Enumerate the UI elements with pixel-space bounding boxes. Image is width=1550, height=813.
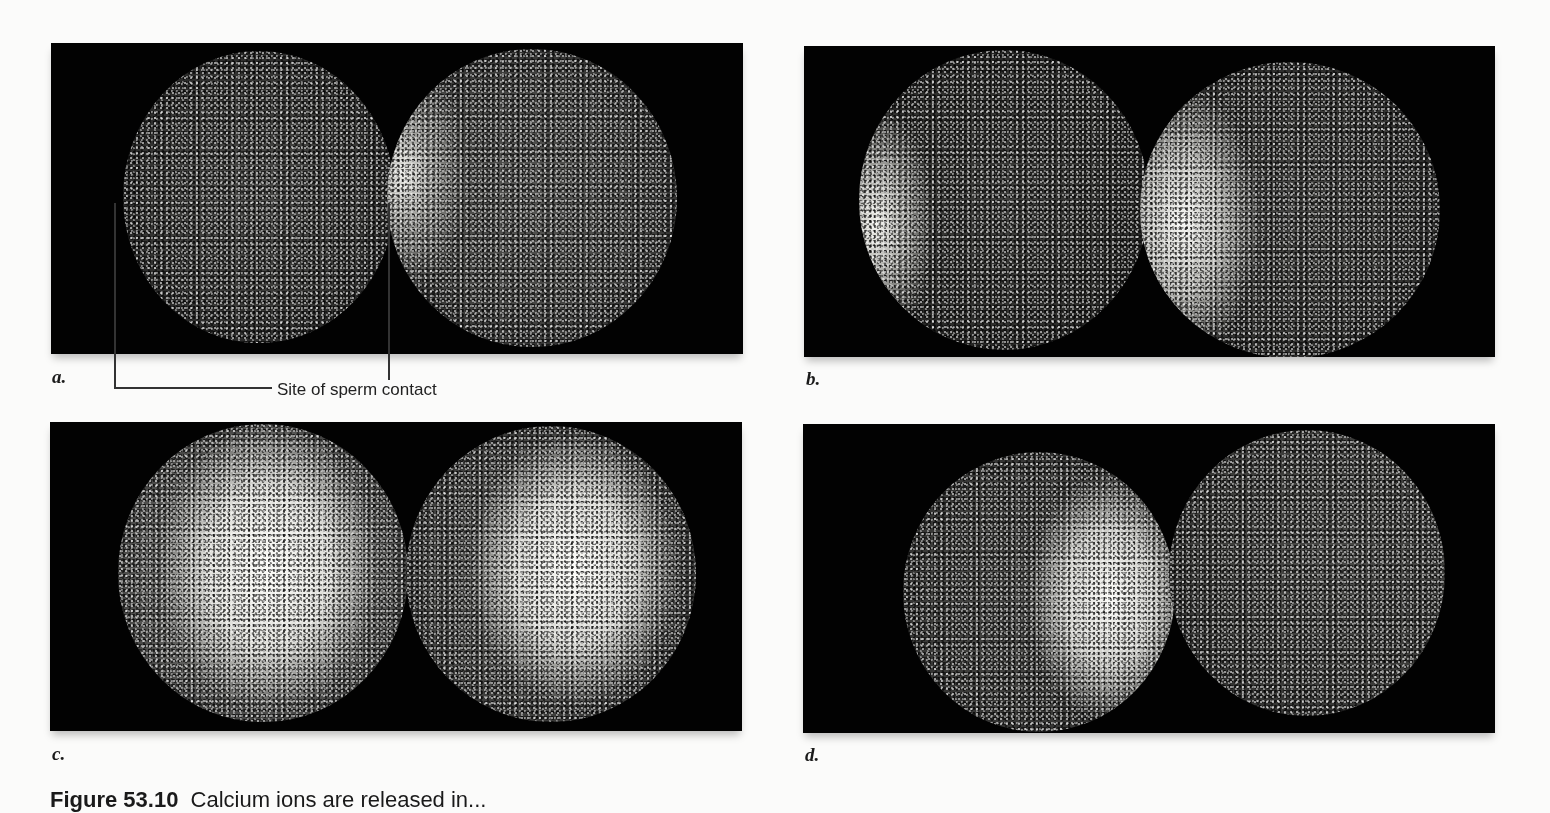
panel-label-b: b. xyxy=(806,368,820,390)
egg-right xyxy=(406,426,696,722)
annotation-sperm-contact: Site of sperm contact xyxy=(277,380,437,400)
panel-label-d: d. xyxy=(805,744,819,766)
panel-label-a: a. xyxy=(52,366,66,388)
egg-left xyxy=(903,452,1175,732)
egg-left xyxy=(859,50,1149,350)
egg-right xyxy=(1140,62,1440,357)
caption-text: Calcium ions are released in... xyxy=(191,787,487,812)
micrograph-panel-b xyxy=(804,46,1495,357)
panel-label-c: c. xyxy=(52,743,65,765)
micrograph-panel-c xyxy=(50,422,742,731)
leader-line-right xyxy=(388,203,390,380)
egg-left xyxy=(118,424,408,722)
egg-left xyxy=(123,51,395,343)
leader-line-left xyxy=(114,203,116,389)
micrograph-panel-d xyxy=(803,424,1495,733)
figure-number: Figure 53.10 xyxy=(50,787,178,812)
egg-right xyxy=(1169,430,1445,716)
leader-line-horizontal xyxy=(114,387,272,389)
micrograph-panel-a xyxy=(51,43,743,354)
figure-caption: Figure 53.10 Calcium ions are released i… xyxy=(50,787,486,813)
egg-right xyxy=(387,49,677,347)
